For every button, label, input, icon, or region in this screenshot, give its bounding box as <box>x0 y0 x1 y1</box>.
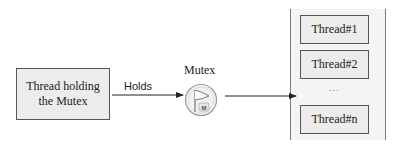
thread-label: Thread#1 <box>312 22 358 37</box>
queue-thread-n: Thread#n <box>300 105 369 134</box>
queue-ellipsis: ... <box>300 82 369 93</box>
queue-thread-1: Thread#1 <box>300 15 369 44</box>
queue-thread-2: Thread#2 <box>300 50 369 79</box>
thread-label: Thread#2 <box>312 57 358 72</box>
mutex-badge: M <box>202 105 207 111</box>
thread-label: Thread#n <box>312 112 358 127</box>
